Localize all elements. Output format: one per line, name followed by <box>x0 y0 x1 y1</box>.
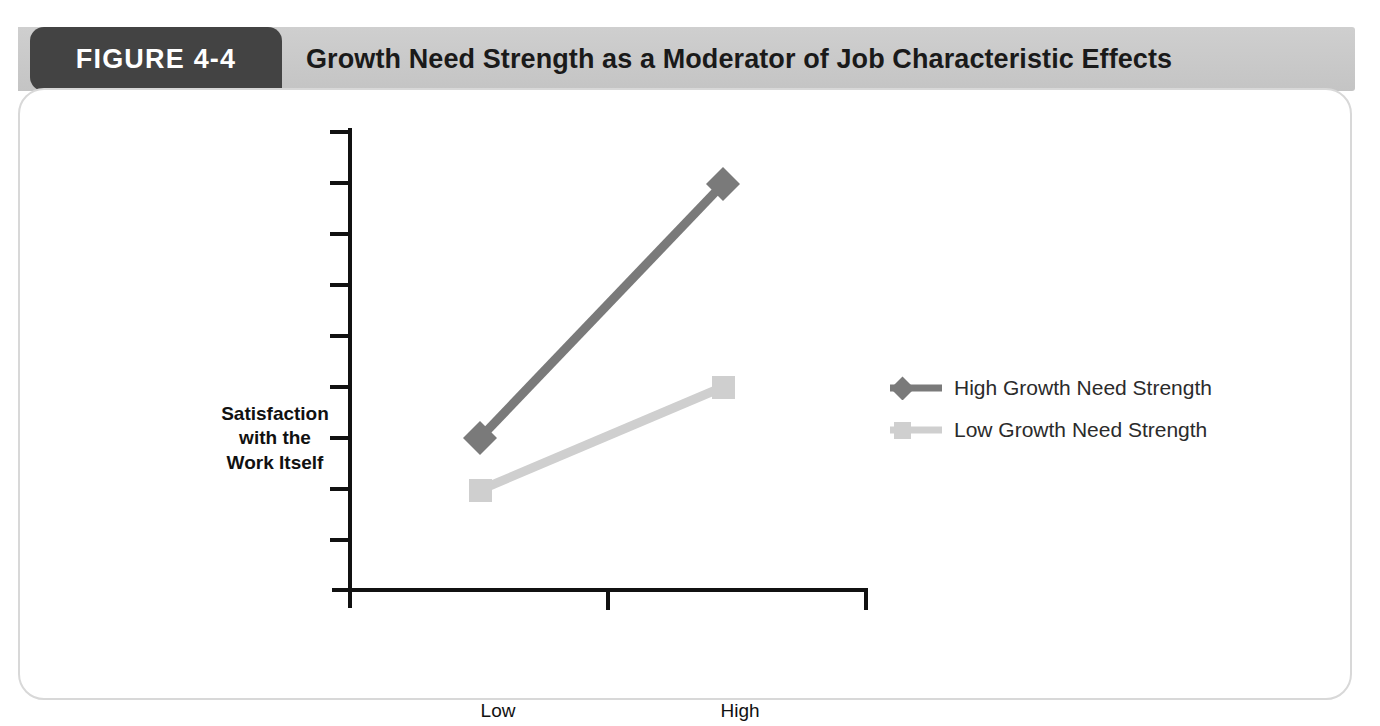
series-high-line <box>480 184 723 438</box>
figure-number-label: FIGURE 4-4 <box>76 44 237 75</box>
legend-diamond-icon <box>888 376 944 400</box>
y-axis-title-line-2: with the <box>200 426 350 450</box>
y-axis-title-line-1: Satisfaction <box>200 402 350 426</box>
figure-number-tab: FIGURE 4-4 <box>30 27 282 91</box>
y-axis-ticks <box>330 132 350 540</box>
figure-container: FIGURE 4-4 Growth Need Strength as a Mod… <box>0 0 1380 726</box>
y-axis-title: Satisfaction with the Work Itself <box>200 402 350 475</box>
series-low-line <box>480 387 723 490</box>
x-tick-label-low: Low <box>428 700 568 722</box>
legend-label-low-growth-need-strength: Low Growth Need Strength <box>954 418 1207 442</box>
figure-title: Growth Need Strength as a Moderator of J… <box>306 27 1172 91</box>
series-high-growth-need-strength <box>463 167 740 455</box>
chart-legend: High Growth Need Strength Low Growth Nee… <box>888 367 1212 451</box>
x-tick-label-high: High <box>670 700 810 722</box>
series-low-marker-high <box>712 376 735 399</box>
legend-item-high-growth-need-strength: High Growth Need Strength <box>888 367 1212 409</box>
series-low-growth-need-strength <box>469 376 735 502</box>
legend-square-icon <box>888 418 944 442</box>
figure-card: Satisfaction with the Work Itself Low Hi… <box>18 88 1352 700</box>
legend-item-low-growth-need-strength: Low Growth Need Strength <box>888 409 1212 451</box>
y-axis-title-line-3: Work Itself <box>200 451 350 475</box>
series-high-marker-low <box>463 421 497 455</box>
x-axis-ticks <box>350 580 866 610</box>
series-high-marker-high <box>706 167 740 201</box>
series-low-marker-low <box>469 479 492 502</box>
legend-label-high-growth-need-strength: High Growth Need Strength <box>954 376 1212 400</box>
